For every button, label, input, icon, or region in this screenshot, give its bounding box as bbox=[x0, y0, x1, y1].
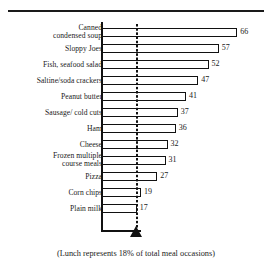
bar bbox=[102, 156, 166, 165]
chart-page: Canned condensed soup66Sloppy Joes57Fish… bbox=[0, 0, 272, 274]
bar bbox=[102, 60, 209, 69]
bar-value-label: 52 bbox=[212, 60, 220, 68]
category-label: Fish, seafood salad bbox=[6, 61, 102, 69]
category-label: Ham bbox=[6, 125, 102, 133]
bar-value-label: 17 bbox=[140, 204, 148, 212]
chart-caption: (Lunch represents 18% of total meal occa… bbox=[0, 249, 272, 259]
bar-value-label: 31 bbox=[169, 156, 177, 164]
category-label: Corn chips bbox=[6, 189, 102, 197]
category-label: Sausage/ cold cuts bbox=[6, 109, 102, 117]
reference-triangle-marker-icon bbox=[130, 226, 142, 237]
bar-value-label: 27 bbox=[160, 172, 168, 180]
category-label: Plain milk bbox=[6, 205, 102, 213]
category-label: Cheese bbox=[6, 141, 102, 149]
y-axis-line bbox=[101, 22, 103, 232]
bar-value-label: 32 bbox=[171, 140, 179, 148]
bar bbox=[102, 92, 186, 101]
category-label: Canned condensed soup bbox=[6, 24, 102, 40]
top-rule-divider bbox=[8, 10, 264, 12]
bar-value-label: 36 bbox=[179, 124, 187, 132]
bar bbox=[102, 108, 178, 117]
bar-value-label: 66 bbox=[240, 28, 248, 36]
bar-value-label: 19 bbox=[144, 188, 152, 196]
bar-value-label: 47 bbox=[201, 76, 209, 84]
bar bbox=[102, 204, 137, 213]
category-label: Pizza bbox=[6, 173, 102, 181]
bar-value-label: 57 bbox=[222, 44, 230, 52]
category-label: Sloppy Joes bbox=[6, 45, 102, 53]
category-label: Saltine/soda crackers bbox=[6, 77, 102, 85]
bar bbox=[102, 28, 237, 37]
bar bbox=[102, 76, 198, 85]
reference-dotted-line bbox=[136, 24, 138, 228]
bar bbox=[102, 44, 219, 53]
category-label: Peanut butter bbox=[6, 93, 102, 101]
category-label: Frozen multiple course meals bbox=[6, 152, 102, 168]
bar-value-label: 37 bbox=[181, 108, 189, 116]
bar bbox=[102, 172, 157, 181]
bar bbox=[102, 124, 176, 133]
bar-value-label: 41 bbox=[189, 92, 197, 100]
